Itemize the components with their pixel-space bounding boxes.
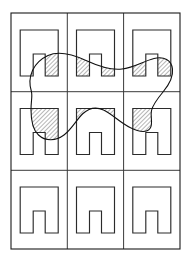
figure-background: [0, 0, 192, 263]
arch-grid-figure: Three-by-three grid of arch cells overla…: [0, 0, 192, 263]
figure-root: Three-by-three grid of arch cells overla…: [0, 0, 192, 263]
